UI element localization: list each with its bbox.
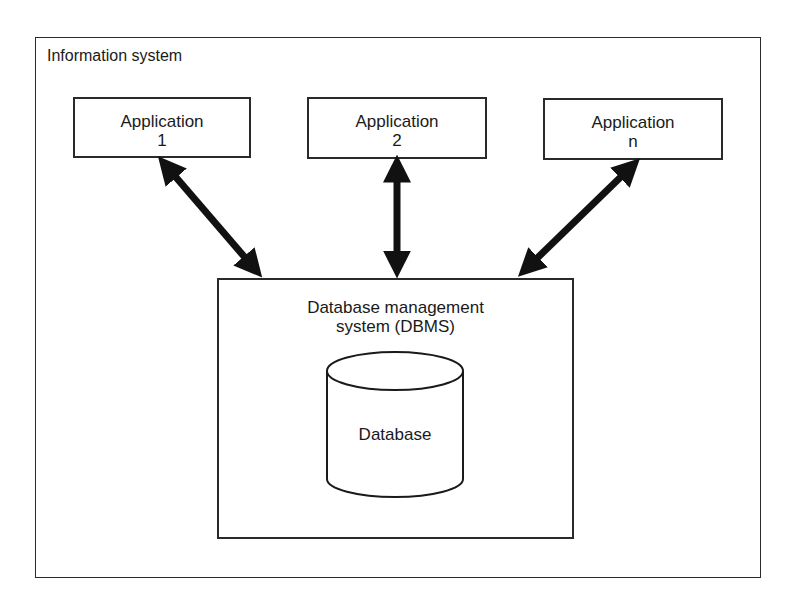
diagram-graphics xyxy=(0,0,795,608)
arrow-app1-dbms xyxy=(168,168,254,268)
arrow-appn-dbms xyxy=(527,169,629,268)
database-label: Database xyxy=(327,425,463,444)
